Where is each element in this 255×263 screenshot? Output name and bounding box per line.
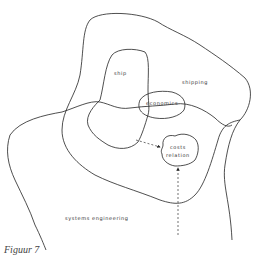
diagram-canvas (0, 0, 255, 263)
label-costs: costs (170, 145, 186, 150)
label-relation: relation (166, 153, 190, 158)
systems-engineering-region (10, 102, 232, 135)
label-economics: economics (146, 101, 178, 106)
label-ship: ship (114, 71, 127, 76)
ship-region (87, 49, 148, 148)
arrow-ship-to-costs (136, 140, 160, 147)
figure-caption: Figuur 7 (4, 244, 39, 255)
label-shipping: shipping (182, 80, 208, 85)
shipping-region (90, 13, 250, 240)
label-systems-engineering: systems engineering (65, 216, 129, 221)
costs-relation-region (161, 134, 198, 166)
